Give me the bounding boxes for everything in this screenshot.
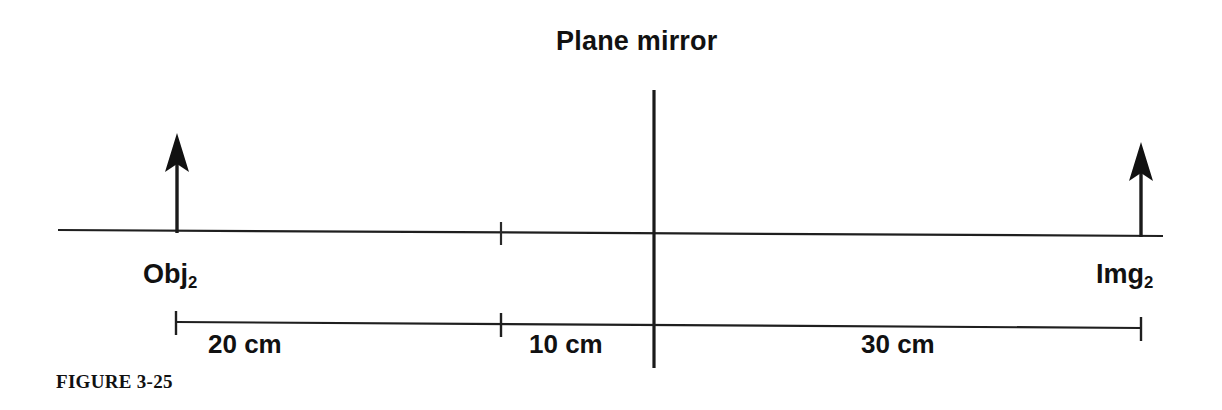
optics-figure: Plane mirror Obj2 Img2 20 cm 10 cm 30 cm… [0,0,1222,410]
diagram-canvas [0,0,1222,410]
image-label-text: Img [1096,259,1144,289]
dimension-label-30cm: 30 cm [861,331,935,357]
image-label: Img2 [1096,261,1153,288]
object-label: Obj2 [143,261,197,288]
dimension-label-20cm: 20 cm [208,331,282,357]
object-label-text: Obj [143,259,188,289]
figure-caption: FIGURE 3-25 [56,371,173,393]
image-label-subscript: 2 [1144,273,1153,292]
plane-mirror-label: Plane mirror [556,28,717,55]
dimension-line [176,322,1141,328]
dimension-label-10cm: 10 cm [529,331,603,357]
object-label-subscript: 2 [188,273,197,292]
optical-axis [58,230,1163,236]
